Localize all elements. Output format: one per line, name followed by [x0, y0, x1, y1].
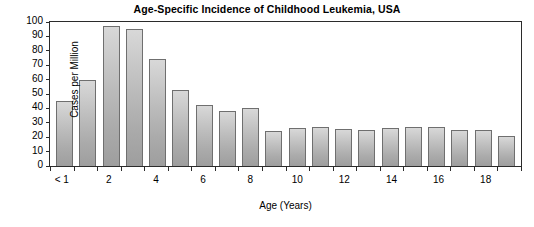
bar	[475, 130, 492, 166]
y-tick-label: 10	[32, 145, 43, 156]
x-tick-mark	[144, 166, 145, 171]
bar	[358, 130, 375, 166]
x-tick-label: 4	[153, 174, 159, 185]
x-tick-mark	[50, 166, 51, 171]
bar-slot	[193, 22, 216, 166]
x-tick-mark	[191, 166, 192, 171]
bar	[498, 136, 515, 166]
x-tick-mark	[380, 166, 381, 171]
bar	[149, 59, 166, 166]
bar-series	[51, 22, 520, 166]
bar	[382, 128, 399, 166]
x-tick-mark	[427, 166, 428, 171]
bar	[242, 108, 259, 166]
y-tick-mark	[46, 36, 50, 37]
bar	[265, 131, 282, 166]
x-tick-mark	[333, 166, 334, 171]
bar-slot	[309, 22, 332, 166]
plot-frame: 0102030405060708090100 < 124681012141618…	[49, 21, 522, 167]
x-tick-mark	[497, 166, 498, 171]
y-tick-label: 50	[32, 87, 43, 98]
bar-slot	[355, 22, 378, 166]
bar	[312, 127, 329, 166]
bar-slot	[216, 22, 239, 166]
chart-title: Age-Specific Incidence of Childhood Leuk…	[0, 3, 534, 15]
bar	[103, 26, 120, 166]
bar	[219, 111, 236, 166]
y-tick-mark	[46, 22, 50, 23]
x-tick-mark	[521, 166, 522, 171]
x-tick-label: 10	[292, 174, 303, 185]
bar-slot	[448, 22, 471, 166]
bar	[428, 127, 445, 166]
y-tick-label: 60	[32, 73, 43, 84]
x-tick-mark	[309, 166, 310, 171]
y-tick-label: 90	[32, 29, 43, 40]
y-tick-mark	[46, 122, 50, 123]
y-tick-mark	[46, 50, 50, 51]
y-tick-mark	[46, 79, 50, 80]
x-tick-mark	[74, 166, 75, 171]
bar-slot	[146, 22, 169, 166]
bar	[126, 29, 143, 166]
x-tick-mark	[168, 166, 169, 171]
bar	[451, 130, 468, 166]
y-tick-label: 80	[32, 44, 43, 55]
x-tick-label: 12	[339, 174, 350, 185]
x-tick-mark	[262, 166, 263, 171]
x-tick-mark	[121, 166, 122, 171]
x-tick-label: 8	[247, 174, 253, 185]
x-tick-label: 16	[433, 174, 444, 185]
bar	[405, 127, 422, 166]
y-tick-mark	[46, 151, 50, 152]
x-axis-title: Age (Years)	[49, 200, 522, 211]
bar-slot	[379, 22, 402, 166]
x-tick-label: 6	[200, 174, 206, 185]
bar	[79, 80, 96, 166]
bar-slot	[239, 22, 262, 166]
x-tick-mark	[215, 166, 216, 171]
x-tick-mark	[474, 166, 475, 171]
y-tick-label: 30	[32, 116, 43, 127]
x-tick-label: 14	[386, 174, 397, 185]
bar-slot	[100, 22, 123, 166]
bar-slot	[286, 22, 309, 166]
y-tick-mark	[46, 108, 50, 109]
y-axis-title: Cases per Million	[69, 5, 80, 155]
bar-slot	[472, 22, 495, 166]
y-tick-label: 40	[32, 101, 43, 112]
y-tick-label: 70	[32, 58, 43, 69]
y-tick-mark	[46, 65, 50, 66]
x-tick-mark	[450, 166, 451, 171]
bar	[196, 105, 213, 166]
plot-area: 0102030405060708090100 < 124681012141618	[50, 22, 521, 166]
x-tick-mark	[356, 166, 357, 171]
bar	[335, 129, 352, 166]
bar-slot	[425, 22, 448, 166]
bar-slot	[495, 22, 518, 166]
bar-slot	[76, 22, 99, 166]
bar	[172, 90, 189, 166]
x-tick-mark	[238, 166, 239, 171]
y-tick-label: 20	[32, 130, 43, 141]
bar-slot	[332, 22, 355, 166]
x-tick-mark	[97, 166, 98, 171]
bar-slot	[123, 22, 146, 166]
y-tick-mark	[46, 94, 50, 95]
x-tick-label: 2	[106, 174, 112, 185]
bar	[289, 128, 306, 166]
x-tick-mark	[403, 166, 404, 171]
y-tick-label: 100	[26, 15, 43, 26]
bar-slot	[169, 22, 192, 166]
x-tick-label: 18	[480, 174, 491, 185]
x-tick-mark	[286, 166, 287, 171]
y-tick-label: 0	[37, 159, 43, 170]
bar-slot	[262, 22, 285, 166]
bar-slot	[402, 22, 425, 166]
y-tick-mark	[46, 137, 50, 138]
chart-figure: Age-Specific Incidence of Childhood Leuk…	[0, 0, 534, 227]
x-tick-label: < 1	[55, 174, 69, 185]
